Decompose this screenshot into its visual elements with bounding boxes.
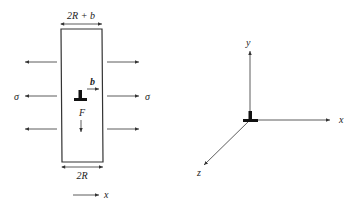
top-width-label: 2R + b — [67, 10, 95, 21]
bottom-width-label: 2R — [76, 170, 87, 181]
x-axis-label: x — [338, 114, 344, 125]
stress-right-label: σ — [145, 91, 151, 102]
stress-left-label: σ — [14, 91, 20, 102]
origin-dislocation-icon — [243, 111, 258, 122]
crystal-block-figure: 2R + b σ σ b F 2R x — [14, 10, 151, 200]
burgers-vector-label: b — [90, 76, 95, 87]
z-axis-label: z — [196, 167, 201, 178]
force-label: F — [78, 107, 86, 118]
dislocation-diagram: 2R + b σ σ b F 2R x y — [0, 0, 352, 207]
coordinate-axes-figure: y x z — [196, 37, 344, 178]
edge-dislocation-icon — [74, 90, 87, 101]
y-axis-label: y — [245, 37, 251, 48]
x-direction-label: x — [103, 189, 109, 200]
z-axis — [204, 120, 250, 165]
